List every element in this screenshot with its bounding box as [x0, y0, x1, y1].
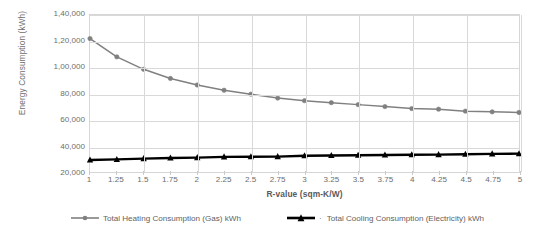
x-axis-tick-label: 3 — [302, 175, 307, 184]
x-axis-tick-mark — [466, 171, 467, 175]
x-axis-tick-label: 3.25 — [324, 175, 340, 184]
y-axis-tick-label: 1,20,000 — [33, 37, 85, 45]
x-axis-tick-mark — [385, 171, 386, 175]
x-axis-tick-label: 1 — [87, 175, 92, 184]
x-axis-tick-mark — [358, 171, 359, 175]
x-axis-tick-label: 4.25 — [431, 175, 447, 184]
x-axis-tick-mark — [412, 171, 413, 175]
x-axis-tick-label: 2.5 — [245, 175, 256, 184]
vertical-gridline — [467, 15, 468, 172]
vertical-gridline — [144, 15, 145, 172]
horizontal-gridline — [90, 42, 519, 43]
chart-legend: Total Heating Consumption (Gas) kWh·Tota… — [0, 213, 555, 223]
series-cooling — [87, 150, 522, 162]
vertical-gridline — [198, 15, 199, 172]
x-axis-tick-mark — [520, 171, 521, 175]
x-axis-tick-label: 1.5 — [137, 175, 148, 184]
x-axis-tick-mark — [89, 171, 90, 175]
x-axis-tick-label: 2.25 — [216, 175, 232, 184]
legend-label: Total Cooling Consumption (Electricity) … — [327, 214, 484, 223]
x-axis-tick-mark — [224, 171, 225, 175]
vertical-gridline — [359, 15, 360, 172]
x-axis-tick-label: 3.5 — [353, 175, 364, 184]
energy-consumption-line-chart: Energy Consumption (kWh) 1,40,0001,20,00… — [0, 0, 555, 241]
x-axis-tick-mark — [116, 171, 117, 175]
x-axis-tick-mark — [170, 171, 171, 175]
vertical-gridline — [521, 15, 522, 172]
x-axis-tick-label: 3.75 — [377, 175, 393, 184]
y-axis-tick-label: 1,40,000 — [33, 10, 85, 18]
x-axis-tick-mark — [439, 171, 440, 175]
y-axis-tick-label: 40,000 — [33, 143, 85, 151]
x-axis-title: R-value (sqm-K/W) — [89, 189, 520, 199]
legend-label: Total Heating Consumption (Gas) kWh — [103, 214, 241, 223]
legend-marker-circle-icon — [71, 213, 99, 223]
y-axis-tick-label: 1,00,000 — [33, 63, 85, 71]
x-axis-tick-mark — [331, 171, 332, 175]
x-axis-tick-label: 4 — [410, 175, 415, 184]
x-axis-tick-label: 5 — [518, 175, 523, 184]
y-axis-title: Energy Consumption (kWh) — [17, 0, 27, 128]
horizontal-gridline — [90, 68, 519, 69]
horizontal-gridline — [90, 148, 519, 149]
y-axis-tick-label: 80,000 — [33, 90, 85, 98]
x-axis-tick-label: 4.75 — [485, 175, 501, 184]
x-axis-tick-label: 2 — [194, 175, 199, 184]
x-axis-tick-label: 4.5 — [460, 175, 471, 184]
legend-item-heating[interactable]: Total Heating Consumption (Gas) kWh — [71, 213, 241, 223]
x-axis-tick-mark — [251, 171, 252, 175]
vertical-gridline — [252, 15, 253, 172]
series-heating — [88, 36, 521, 114]
vertical-gridline — [306, 15, 307, 172]
horizontal-gridline — [90, 121, 519, 122]
y-axis-tick-labels: 1,40,0001,20,0001,00,00080,00060,00040,0… — [30, 0, 85, 241]
x-axis-tick-mark — [197, 171, 198, 175]
legend-item-cooling[interactable]: ·Total Cooling Consumption (Electricity)… — [287, 213, 484, 223]
vertical-gridline — [413, 15, 414, 172]
y-axis-tick-label: 20,000 — [33, 169, 85, 177]
plot-area — [89, 14, 520, 173]
legend-marker-triangle-icon — [287, 213, 315, 223]
x-axis-tick-mark — [278, 171, 279, 175]
horizontal-gridline — [90, 95, 519, 96]
x-axis-tick-labels: 11.251.51.7522.252.52.7533.253.53.7544.2… — [89, 175, 520, 189]
x-axis-tick-mark — [305, 171, 306, 175]
x-axis-tick-label: 1.75 — [162, 175, 178, 184]
x-axis-tick-label: 1.25 — [108, 175, 124, 184]
legend-separator-dot-icon: · — [319, 214, 322, 223]
x-axis-tick-mark — [143, 171, 144, 175]
x-axis-tick-mark — [493, 171, 494, 175]
y-axis-tick-label: 60,000 — [33, 116, 85, 124]
horizontal-gridline — [90, 15, 519, 16]
x-axis-tick-label: 2.75 — [270, 175, 286, 184]
